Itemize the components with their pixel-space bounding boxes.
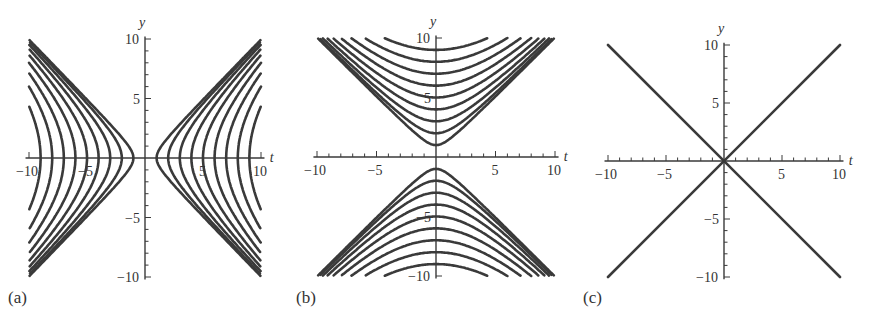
- y-tick-10: 10: [125, 32, 139, 47]
- y-tick-5: 5: [133, 92, 140, 107]
- x-axis-label: t: [270, 150, 275, 165]
- x-tick-neg10: −10: [595, 167, 617, 182]
- y-axis-label: y: [716, 21, 725, 36]
- y-axis-label: y: [428, 14, 437, 29]
- x-tick-5: 5: [199, 164, 206, 179]
- panel-label: (a): [8, 288, 27, 307]
- x-tick-10: 10: [832, 167, 846, 182]
- panel-label: (c): [583, 288, 602, 307]
- x-tick-5: 5: [492, 163, 499, 178]
- y-tick-5: 5: [424, 91, 431, 106]
- y-tick-neg10: −10: [408, 269, 430, 284]
- x-tick-neg5: −5: [368, 163, 383, 178]
- y-tick-neg10: −10: [696, 270, 718, 285]
- y-tick-neg5: −5: [704, 212, 719, 227]
- y-tick-neg5: −5: [416, 210, 431, 225]
- y-tick-neg10: −10: [117, 270, 139, 285]
- x-axis-label: t: [849, 153, 854, 168]
- x-tick-neg10: −10: [16, 164, 38, 179]
- x-tick-neg10: −10: [304, 163, 326, 178]
- x-tick-neg5: −5: [657, 167, 672, 182]
- panel-a: −10 −5 5 10 10 5 −5 −10 t y (a): [8, 15, 275, 307]
- figure: −10 −5 5 10 10 5 −5 −10 t y (a) −10 −5 5…: [0, 0, 872, 318]
- y-axis-label: y: [137, 15, 146, 30]
- y-tick-5: 5: [712, 96, 719, 111]
- y-tick-10: 10: [416, 31, 430, 46]
- x-tick-5: 5: [778, 167, 785, 182]
- x-tick-10: 10: [547, 163, 561, 178]
- x-tick-10: 10: [253, 164, 267, 179]
- y-tick-neg5: −5: [125, 211, 140, 226]
- x-tick-neg5: −5: [78, 164, 93, 179]
- panel-label: (b): [296, 288, 316, 307]
- panel-c: −10 −5 5 10 10 5 −5 −10 t y (c): [583, 21, 854, 307]
- panel-b: −10 −5 5 10 10 5 −5 −10 t y (b): [296, 14, 569, 307]
- x-axis-label: t: [564, 149, 569, 164]
- y-tick-10: 10: [704, 38, 718, 53]
